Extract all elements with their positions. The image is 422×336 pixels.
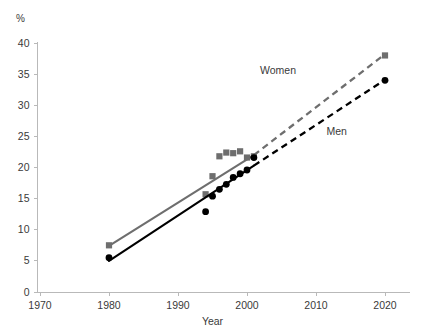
x-tick-label: 1970	[28, 299, 52, 311]
series-annotation-women: Women	[260, 64, 296, 76]
y-tick-label: 35	[18, 68, 30, 80]
chart-container: 0510152025303540197019801990200020102020…	[0, 0, 422, 336]
data-point-men	[216, 186, 223, 193]
trendline-dashed-men	[254, 80, 385, 166]
data-point-women	[209, 173, 215, 179]
data-point-women	[223, 149, 229, 155]
series-layer	[106, 52, 389, 261]
data-point-men	[223, 181, 230, 188]
data-point-men	[244, 167, 251, 174]
x-tick-label: 1990	[166, 299, 190, 311]
x-axis-title: Year	[202, 315, 224, 327]
x-tick-label: 1980	[97, 299, 121, 311]
y-tick-label: 30	[18, 99, 30, 111]
data-point-men	[202, 208, 209, 215]
x-tick-label: 2000	[235, 299, 259, 311]
y-tick-label: 5	[24, 254, 30, 266]
data-point-women	[106, 242, 112, 248]
y-tick-label: 15	[18, 192, 30, 204]
data-point-men	[382, 77, 389, 84]
series-annotation-men: Men	[326, 125, 347, 137]
scatter-plot-with-trendlines: 0510152025303540197019801990200020102020…	[0, 0, 422, 336]
y-tick-label: 20	[18, 161, 30, 173]
data-point-men	[251, 154, 258, 161]
data-point-men	[237, 170, 244, 177]
data-point-men	[209, 193, 216, 200]
y-tick-label: 40	[18, 37, 30, 49]
data-point-women	[237, 148, 243, 154]
y-tick-label: 10	[18, 223, 30, 235]
data-point-women	[244, 154, 250, 160]
y-tick-label: 25	[18, 130, 30, 142]
data-point-women	[216, 153, 222, 159]
x-tick-label: 2010	[304, 299, 328, 311]
data-point-women	[382, 52, 388, 58]
data-point-men	[106, 254, 113, 261]
y-tick-label: 0	[24, 286, 30, 298]
labels-layer: %YearWomenMen	[16, 13, 347, 327]
x-tick-label: 2020	[373, 299, 397, 311]
data-point-women	[230, 150, 236, 156]
data-point-men	[230, 174, 237, 181]
y-axis-unit-label: %	[16, 13, 25, 24]
trendline-solid-women	[109, 155, 254, 246]
